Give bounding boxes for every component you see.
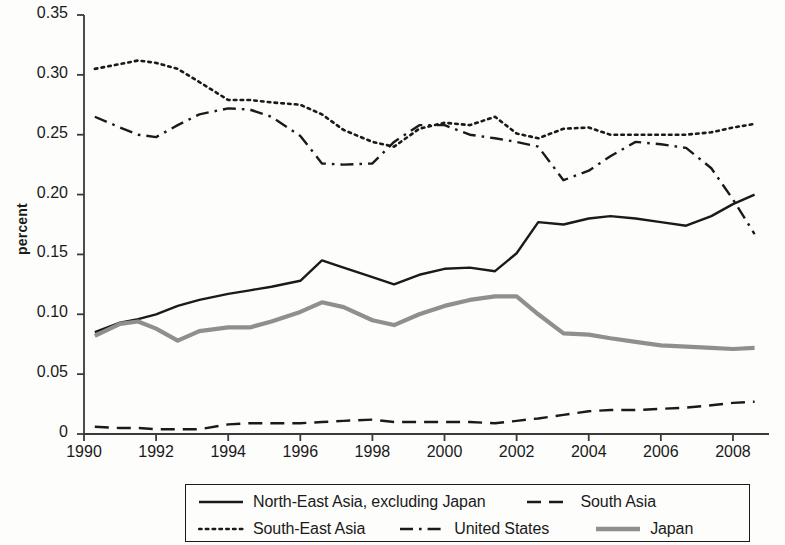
series-line-south-east-asia — [95, 60, 755, 146]
legend-line-sample — [198, 495, 244, 509]
y-tick-label: 0.35 — [0, 4, 68, 22]
x-tick-label: 1992 — [121, 443, 191, 461]
x-tick-label: 1996 — [265, 443, 335, 461]
x-tick-label: 2002 — [482, 443, 552, 461]
series-line-japan — [95, 296, 755, 349]
legend-line-sample — [526, 495, 572, 509]
legend-line-sample — [198, 522, 244, 536]
chart-figure: percent 00.050.100.150.200.250.300.35199… — [0, 0, 785, 545]
legend-label: North-East Asia, excluding Japan — [253, 493, 486, 511]
x-tick-label: 1990 — [49, 443, 119, 461]
y-tick-label: 0.20 — [0, 184, 68, 202]
plot-area — [0, 0, 785, 470]
series-line-south-asia — [95, 402, 755, 430]
legend-row: South-East AsiaUnited StatesJapan — [186, 514, 749, 543]
legend-label: United States — [454, 520, 549, 538]
axis-lines — [77, 15, 769, 441]
legend-line-sample — [595, 522, 641, 536]
y-tick-label: 0.10 — [0, 303, 68, 321]
y-tick-label: 0.15 — [0, 243, 68, 261]
legend-entry[interactable]: South-East Asia — [198, 520, 365, 538]
legend-entry[interactable]: South Asia — [526, 493, 657, 511]
legend-label: Japan — [650, 520, 693, 538]
chart-legend: North-East Asia, excluding JapanSouth As… — [185, 484, 750, 542]
x-tick-label: 2004 — [554, 443, 624, 461]
x-tick-label: 2006 — [626, 443, 696, 461]
legend-label: South Asia — [581, 493, 657, 511]
data-series-group — [95, 60, 755, 429]
legend-row: North-East Asia, excluding JapanSouth As… — [186, 487, 749, 516]
y-tick-label: 0 — [0, 423, 68, 441]
y-tick-label: 0.25 — [0, 124, 68, 142]
x-tick-label: 2000 — [410, 443, 480, 461]
x-tick-label: 1998 — [337, 443, 407, 461]
legend-entry[interactable]: North-East Asia, excluding Japan — [198, 493, 486, 511]
y-tick-label: 0.05 — [0, 363, 68, 381]
y-tick-label: 0.30 — [0, 64, 68, 82]
legend-entry[interactable]: United States — [399, 520, 549, 538]
legend-label: South-East Asia — [253, 520, 365, 538]
x-tick-label: 1994 — [193, 443, 263, 461]
legend-line-sample — [399, 522, 445, 536]
x-tick-label: 2008 — [698, 443, 768, 461]
legend-entry[interactable]: Japan — [595, 520, 693, 538]
